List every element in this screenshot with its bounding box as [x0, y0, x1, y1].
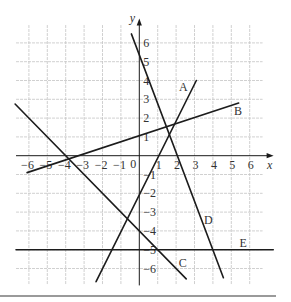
y-tick-label: −4	[143, 224, 156, 238]
line-label-c: C	[179, 256, 187, 270]
line-label-d: D	[204, 213, 213, 227]
y-tick-label: 3	[143, 92, 149, 106]
y-axis-label: y	[129, 11, 136, 25]
x-tick-label: −1	[113, 158, 126, 172]
y-tick-label: −6	[143, 262, 156, 276]
y-tick-label: −3	[143, 205, 156, 219]
line-label-e: E	[240, 236, 247, 250]
x-tick-label: 5	[229, 158, 235, 172]
bottom-divider	[0, 295, 276, 297]
line-c	[15, 104, 186, 279]
x-tick-label: 3	[193, 158, 199, 172]
x-tick-label: −2	[95, 158, 108, 172]
y-tick-label: 2	[143, 111, 149, 125]
x-tick-label: −6	[21, 158, 34, 172]
origin-label: 0	[130, 157, 136, 171]
x-tick-label: 6	[248, 158, 254, 172]
y-tick-label: −2	[143, 186, 156, 200]
y-tick-label: 6	[143, 36, 149, 50]
x-tick-label: 4	[211, 158, 217, 172]
coordinate-plane: xy −6−5−4−3−2−10123456654321−1−2−3−4−5−6…	[0, 0, 291, 302]
x-axis-label: x	[266, 158, 273, 172]
line-label-b: B	[234, 104, 242, 118]
y-axis-arrow-icon	[137, 18, 142, 25]
line-label-a: A	[179, 80, 188, 94]
